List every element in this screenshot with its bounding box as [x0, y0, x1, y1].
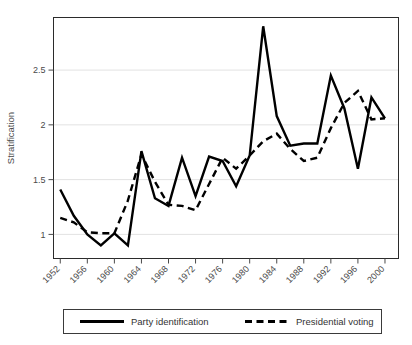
legend-label: Party identification: [131, 316, 209, 327]
x-tick-label: 1984: [257, 264, 278, 285]
stratification-line-chart: 11.522.5 1952195619601964196819721976198…: [0, 0, 412, 345]
plot-frame: [54, 18, 399, 259]
y-axis-title: Stratification: [5, 112, 16, 164]
x-tick-label: 1964: [122, 264, 143, 285]
y-tick-label: 2.5: [33, 65, 46, 75]
x-tick-label: 1996: [338, 264, 359, 285]
legend-label: Presidential voting: [296, 316, 374, 327]
x-tick-label: 2000: [365, 264, 386, 285]
x-tick-label: 1972: [176, 264, 197, 285]
data-series-layer: [60, 26, 385, 245]
y-tick-label: 1.5: [33, 175, 46, 185]
x-tick-label: 1968: [149, 264, 170, 285]
x-tick-label: 1980: [230, 264, 251, 285]
y-axis-tickmarks: [49, 70, 54, 234]
x-tick-label: 1992: [311, 264, 332, 285]
y-axis-tick-labels: 11.522.5: [33, 65, 46, 239]
x-tick-label: 1956: [68, 264, 89, 285]
gridlines: [54, 70, 399, 234]
x-tick-label: 1988: [284, 264, 305, 285]
chart-figure: 11.522.5 1952195619601964196819721976198…: [0, 0, 412, 345]
series-line-solid: [60, 26, 385, 245]
x-tick-label: 1976: [203, 264, 224, 285]
y-tick-label: 2: [40, 120, 45, 130]
x-tick-label: 1952: [40, 264, 61, 285]
x-axis-tick-labels: 1952195619601964196819721976198019841988…: [40, 264, 386, 285]
y-tick-label: 1: [40, 230, 45, 240]
x-tick-label: 1960: [95, 264, 116, 285]
x-axis-tickmarks: [60, 259, 385, 264]
